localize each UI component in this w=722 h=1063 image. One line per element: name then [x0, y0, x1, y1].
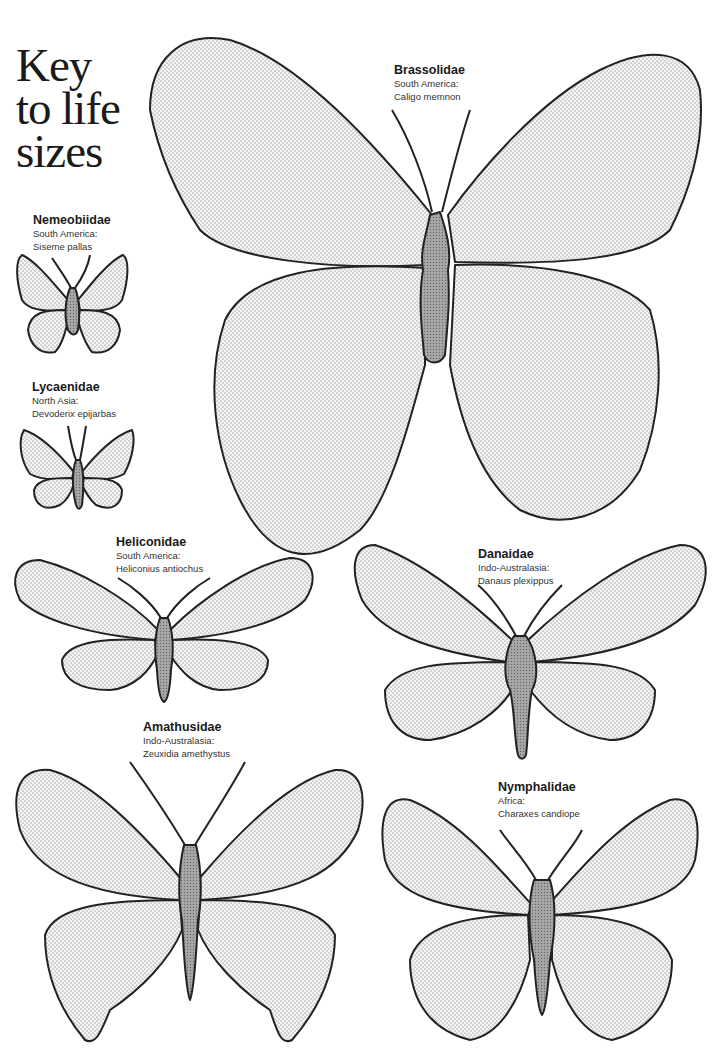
butterfly-amathusidae: [16, 762, 362, 1041]
region: South America:: [116, 549, 203, 562]
region: Africa:: [498, 794, 580, 807]
label-nymphalidae: Nymphalidae Africa: Charaxes candiope: [498, 780, 580, 820]
species-name: Devoderix epijarbas: [32, 407, 116, 420]
region: Indo-Australasia:: [478, 561, 554, 574]
species-name: Danaus plexippus: [478, 574, 554, 587]
butterfly-lycaenidae: [21, 426, 134, 509]
family-name: Danaidae: [478, 547, 554, 561]
species-name: Siseme pallas: [33, 240, 111, 253]
label-lycaenidae: Lycaenidae North Asia: Devoderix epijarb…: [32, 380, 116, 420]
butterfly-nemeobiidae: [17, 255, 127, 353]
label-brassolidae: Brassolidae South America: Caligo memnon: [394, 63, 465, 103]
species-name: Zeuxidia amethystus: [143, 747, 230, 760]
family-name: Heliconidae: [116, 535, 203, 549]
region: South America:: [394, 77, 465, 90]
butterfly-nymphalidae: [382, 799, 697, 1040]
label-danaidae: Danaidae Indo-Australasia: Danaus plexip…: [478, 547, 554, 587]
species-name: Charaxes candiope: [498, 807, 580, 820]
family-name: Nymphalidae: [498, 780, 580, 794]
label-amathusidae: Amathusidae Indo-Australasia: Zeuxidia a…: [143, 720, 230, 760]
region: North Asia:: [32, 394, 116, 407]
region: Indo-Australasia:: [143, 734, 230, 747]
label-nemeobiidae: Nemeobiidae South America: Siseme pallas: [33, 213, 111, 253]
family-name: Lycaenidae: [32, 380, 116, 394]
butterfly-heliconidae: [15, 558, 312, 702]
family-name: Nemeobiidae: [33, 213, 111, 227]
family-name: Brassolidae: [394, 63, 465, 77]
family-name: Amathusidae: [143, 720, 230, 734]
label-heliconidae: Heliconidae South America: Heliconius an…: [116, 535, 203, 575]
region: South America:: [33, 227, 111, 240]
species-name: Caligo memnon: [394, 90, 465, 103]
butterfly-brassolidae: [150, 38, 701, 554]
species-name: Heliconius antiochus: [116, 562, 203, 575]
butterfly-illustrations: [0, 0, 722, 1063]
